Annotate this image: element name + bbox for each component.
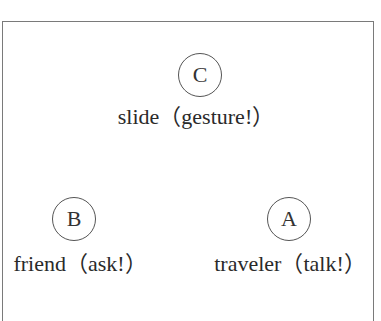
node-c-circle: C	[178, 53, 222, 97]
node-a-circle: A	[267, 197, 311, 241]
node-a-letter: A	[281, 206, 297, 232]
node-b-letter: B	[67, 206, 82, 232]
node-a-label: traveler（talk!）	[214, 245, 366, 277]
node-c-label: slide（gesture!）	[118, 98, 274, 130]
node-b-circle: B	[52, 197, 96, 241]
node-c-letter: C	[193, 62, 208, 88]
node-b-label: friend（ask!）	[13, 245, 146, 277]
